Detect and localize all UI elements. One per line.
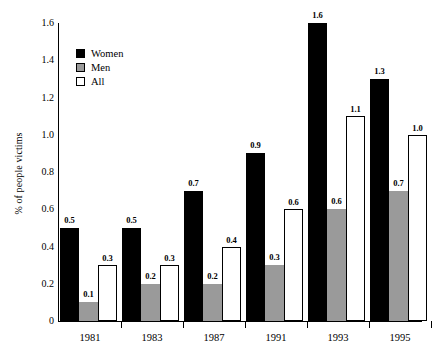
legend-label-all: All bbox=[91, 76, 104, 87]
y-tick-label: 1.2 bbox=[26, 93, 54, 103]
x-tick-label: 1991 bbox=[241, 332, 311, 343]
y-tick-label: 1.6 bbox=[26, 18, 54, 28]
bar-all: 1.0 bbox=[408, 135, 427, 321]
bar-all: 0.6 bbox=[284, 209, 303, 321]
bar-women: 0.7 bbox=[184, 191, 203, 321]
x-tick-label: 1993 bbox=[303, 332, 373, 343]
legend-item-all: All bbox=[76, 75, 123, 88]
x-axis-tick bbox=[369, 321, 370, 328]
bar-value-label: 0.9 bbox=[250, 141, 261, 150]
legend-label-men: Men bbox=[91, 62, 110, 73]
legend-swatch-all bbox=[76, 77, 85, 86]
x-axis-line bbox=[58, 321, 422, 322]
bar-value-label: 0.3 bbox=[269, 253, 280, 262]
bar-value-label: 0.3 bbox=[164, 254, 175, 263]
bar-men: 0.2 bbox=[141, 284, 160, 321]
bar-value-label: 0.7 bbox=[393, 179, 404, 188]
x-tick-label: 1983 bbox=[117, 332, 187, 343]
legend-swatch-women bbox=[76, 49, 85, 58]
x-axis-tick bbox=[183, 321, 184, 328]
bar-group: 0.70.20.4 bbox=[183, 23, 245, 321]
bar-women: 0.9 bbox=[246, 153, 265, 321]
bar-men: 0.1 bbox=[79, 302, 98, 321]
bar-value-label: 0.2 bbox=[207, 272, 218, 281]
x-tick-label: 1987 bbox=[179, 332, 249, 343]
bar-value-label: 0.4 bbox=[226, 236, 237, 245]
bar-value-label: 0.5 bbox=[126, 216, 137, 225]
legend-label-women: Women bbox=[91, 48, 123, 59]
bar-all: 0.3 bbox=[98, 265, 117, 321]
y-tick-label: 0.2 bbox=[26, 279, 54, 289]
bar-women: 1.3 bbox=[370, 79, 389, 321]
y-tick-label: 1.4 bbox=[26, 55, 54, 65]
bar-all: 1.1 bbox=[346, 116, 365, 321]
x-tick-label: 1995 bbox=[365, 332, 435, 343]
y-tick-label: 0.6 bbox=[26, 204, 54, 214]
bar-value-label: 1.0 bbox=[412, 124, 423, 133]
bar-women: 0.5 bbox=[60, 228, 79, 321]
x-axis-tick bbox=[307, 321, 308, 328]
bar-value-label: 0.7 bbox=[188, 179, 199, 188]
bar-value-label: 0.6 bbox=[331, 197, 342, 206]
y-tick-label: 0 bbox=[26, 316, 54, 326]
x-axis-tick bbox=[245, 321, 246, 328]
bar-group: 0.90.30.6 bbox=[245, 23, 307, 321]
bar-all: 0.3 bbox=[160, 265, 179, 321]
bar-women: 0.5 bbox=[122, 228, 141, 321]
bar-men: 0.3 bbox=[265, 265, 284, 321]
bar-men: 0.7 bbox=[389, 191, 408, 321]
bar-chart: % of people victims 00.20.40.60.81.01.21… bbox=[0, 0, 443, 361]
bar-men: 0.6 bbox=[327, 209, 346, 321]
bar-women: 1.6 bbox=[308, 23, 327, 321]
legend-item-women: Women bbox=[76, 47, 123, 60]
bar-group: 1.60.61.1 bbox=[307, 23, 369, 321]
bar-value-label: 1.3 bbox=[374, 67, 385, 76]
x-tick-label: 1981 bbox=[55, 332, 125, 343]
legend-swatch-men bbox=[76, 63, 85, 72]
cropped-caption-remnant bbox=[0, 0, 443, 8]
y-tick-label: 0.8 bbox=[26, 167, 54, 177]
bar-value-label: 0.6 bbox=[288, 198, 299, 207]
bar-value-label: 0.3 bbox=[102, 254, 113, 263]
x-axis-tick bbox=[431, 321, 432, 328]
bar-value-label: 0.5 bbox=[64, 216, 75, 225]
bar-group: 1.30.71.0 bbox=[369, 23, 431, 321]
y-tick-label: 1.0 bbox=[26, 130, 54, 140]
y-axis-title: % of people victims bbox=[13, 104, 24, 244]
bar-value-label: 1.6 bbox=[312, 11, 323, 20]
legend: Women Men All bbox=[76, 47, 123, 89]
bar-all: 0.4 bbox=[222, 247, 241, 322]
bar-value-label: 0.1 bbox=[83, 290, 94, 299]
bar-value-label: 0.2 bbox=[145, 272, 156, 281]
legend-item-men: Men bbox=[76, 61, 123, 74]
y-tick-label: 0.4 bbox=[26, 242, 54, 252]
x-axis-tick bbox=[121, 321, 122, 328]
bar-men: 0.2 bbox=[203, 284, 222, 321]
bar-group: 0.50.20.3 bbox=[121, 23, 183, 321]
bar-value-label: 1.1 bbox=[350, 105, 361, 114]
